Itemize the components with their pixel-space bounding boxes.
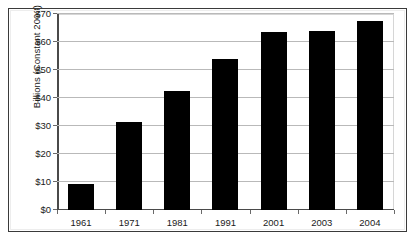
bar — [357, 21, 383, 210]
bar-group: 2003 — [298, 14, 346, 210]
bar-group: 1991 — [201, 14, 249, 210]
x-tick-label: 1971 — [119, 217, 140, 228]
bar — [212, 59, 238, 210]
y-tick-label: $40 — [35, 92, 51, 103]
x-tick-label: 2001 — [263, 217, 284, 228]
bar — [68, 184, 94, 210]
bar-series: 1961197119811991200120032004 — [57, 14, 394, 210]
y-tick-label: $10 — [35, 176, 51, 187]
bar-group: 1961 — [57, 14, 105, 210]
x-tick-mark — [57, 210, 58, 214]
x-tick-label: 1961 — [70, 217, 91, 228]
bar — [309, 31, 335, 210]
x-tick-label: 1991 — [215, 217, 236, 228]
y-tick-label: $70 — [35, 8, 51, 19]
y-tick-label: $20 — [35, 148, 51, 159]
plot-area: $0$10$20$30$40$50$60$70 1961197119811991… — [57, 14, 394, 210]
y-tick-label: $30 — [35, 120, 51, 131]
x-tick-mark — [346, 210, 347, 214]
bar — [116, 122, 142, 210]
x-tick-mark — [105, 210, 106, 214]
bar — [164, 91, 190, 210]
bar — [261, 32, 287, 210]
x-tick-mark — [298, 210, 299, 214]
chart-frame: Billions (Constant 2003) $0$10$20$30$40$… — [8, 8, 407, 232]
bar-group: 2001 — [250, 14, 298, 210]
bar-group: 1971 — [105, 14, 153, 210]
y-tick-label: $60 — [35, 36, 51, 47]
x-tick-label: 2003 — [311, 217, 332, 228]
x-tick-mark — [250, 210, 251, 214]
y-tick-label: $50 — [35, 64, 51, 75]
y-tick-label: $0 — [40, 203, 51, 214]
x-tick-mark — [201, 210, 202, 214]
x-tick-mark — [153, 210, 154, 214]
bar-group: 2004 — [346, 14, 394, 210]
x-tick-label: 2004 — [359, 217, 380, 228]
bar-group: 1981 — [153, 14, 201, 210]
x-tick-mark — [394, 210, 395, 214]
x-tick-label: 1981 — [167, 217, 188, 228]
